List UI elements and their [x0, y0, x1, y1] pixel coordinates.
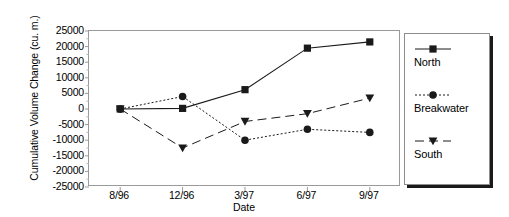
legend-marker-circle-icon [405, 88, 491, 102]
square-marker [304, 45, 311, 52]
y-tick-label: 20000 [24, 41, 84, 52]
legend-sample-south [405, 134, 491, 148]
x-axis-title: Date [88, 201, 400, 213]
y-tick-label: -10000 [24, 134, 84, 145]
y-tick-label: -5000 [24, 119, 84, 130]
x-tick-label: 12/96 [152, 190, 212, 201]
circle-marker [304, 125, 312, 133]
chart-legend: NorthBreakwaterSouth [404, 33, 490, 185]
legend-entry-south[interactable]: South [405, 134, 491, 161]
legend-label: Breakwater [405, 102, 491, 115]
y-tick-label: -15000 [24, 150, 84, 161]
square-marker [366, 38, 373, 45]
circle-marker [429, 91, 437, 99]
legend-label: South [405, 148, 491, 161]
legend-sample-north [405, 42, 491, 56]
x-tick-label: 6/97 [276, 190, 336, 201]
y-tick-label: 0 [24, 103, 84, 114]
y-tick-label: 10000 [24, 72, 84, 83]
series-layer [89, 31, 401, 187]
square-marker [241, 86, 248, 93]
y-tick-label: -25000 [24, 181, 84, 192]
legend-entry-north[interactable]: North [405, 42, 491, 69]
plot-area [88, 30, 400, 186]
y-tick-label: 25000 [24, 25, 84, 36]
legend-marker-triangle-down-icon [405, 134, 491, 148]
circle-marker [366, 129, 374, 137]
x-tick-label: 9/97 [339, 190, 399, 201]
y-tick-label: -20000 [24, 165, 84, 176]
series-line [120, 42, 370, 109]
y-tick-label: 5000 [24, 87, 84, 98]
triangle-down-marker [241, 118, 250, 126]
x-tick-label: 8/96 [89, 190, 149, 201]
circle-marker [179, 93, 187, 101]
square-marker [179, 105, 186, 112]
square-marker [429, 45, 436, 52]
x-tick-label: 3/97 [214, 190, 274, 201]
y-tick-label: 15000 [24, 56, 84, 67]
legend-sample-breakwater [405, 88, 491, 102]
triangle-down-marker [365, 94, 374, 102]
legend-marker-square-icon [405, 42, 491, 56]
legend-entry-breakwater[interactable]: Breakwater [405, 88, 491, 115]
legend-label: North [405, 56, 491, 69]
chart-figure: Cumulative Volume Change (cu. m.) 250002… [0, 0, 509, 217]
triangle-down-marker [178, 144, 187, 152]
series-north [117, 38, 374, 112]
y-axis-tick-labels: 2500020000150001000050000-5000-10000-150… [20, 30, 84, 186]
circle-marker [241, 136, 249, 144]
